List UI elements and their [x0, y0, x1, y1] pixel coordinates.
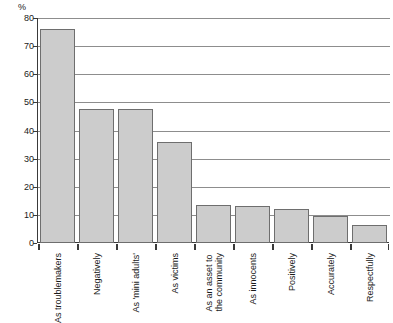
x-axis-category-label: Negatively	[92, 253, 102, 295]
y-axis-tick-label: 70	[0, 42, 34, 51]
y-axis-tick-label: 80	[0, 14, 34, 23]
bar-chart: % 01020304050607080 As troublemakersNega…	[0, 0, 393, 323]
bar	[235, 206, 270, 243]
bar	[196, 205, 231, 243]
y-axis-tick-label: 0	[0, 239, 34, 248]
x-axis-tick	[38, 244, 40, 250]
x-axis-tick	[194, 244, 196, 250]
x-axis-category-label: As victims	[170, 253, 180, 294]
x-axis-category-label: Positively	[287, 253, 297, 291]
x-axis-tick	[350, 244, 352, 250]
bar	[313, 216, 348, 243]
y-axis-tick-label: 20	[0, 183, 34, 192]
x-axis-tick	[233, 244, 235, 250]
x-axis-tick	[272, 244, 274, 250]
x-axis-category-label: Accurately	[326, 253, 336, 295]
y-axis-tick-label: 10	[0, 211, 34, 220]
bar	[40, 29, 75, 243]
y-axis-tick-label: 60	[0, 70, 34, 79]
x-axis-category-label: Respectfully	[365, 253, 375, 302]
bar	[352, 225, 387, 243]
bar	[118, 109, 153, 243]
bar	[79, 109, 114, 243]
y-axis-tick-label: 40	[0, 127, 34, 136]
x-axis-tick	[155, 244, 157, 250]
y-axis-tick	[33, 243, 37, 244]
bar	[274, 209, 309, 243]
x-axis-tick	[311, 244, 313, 250]
x-axis-category-label: As an asset to the community	[204, 253, 224, 312]
x-axis-tick	[388, 244, 390, 250]
y-axis-tick-label: 30	[0, 155, 34, 164]
bar	[157, 142, 192, 243]
x-axis-tick	[116, 244, 118, 250]
x-axis-category-label: As innocents	[248, 253, 258, 305]
x-axis-tick	[77, 244, 79, 250]
y-axis-tick-label: 50	[0, 98, 34, 107]
bars-layer	[38, 18, 389, 243]
x-axis-category-label: As troublemakers	[53, 253, 63, 323]
y-axis-unit-label: %	[18, 2, 26, 12]
x-axis-category-label: As 'mini adults'	[131, 253, 141, 312]
